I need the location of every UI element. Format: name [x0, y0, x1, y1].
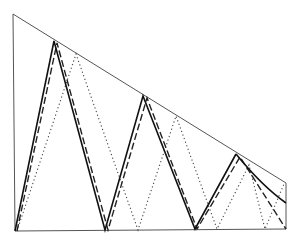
dotted-path: [17, 54, 284, 231]
wedge-frame: [13, 14, 286, 231]
reflection-diagram: [0, 0, 300, 243]
dashed-path: [17, 43, 286, 231]
